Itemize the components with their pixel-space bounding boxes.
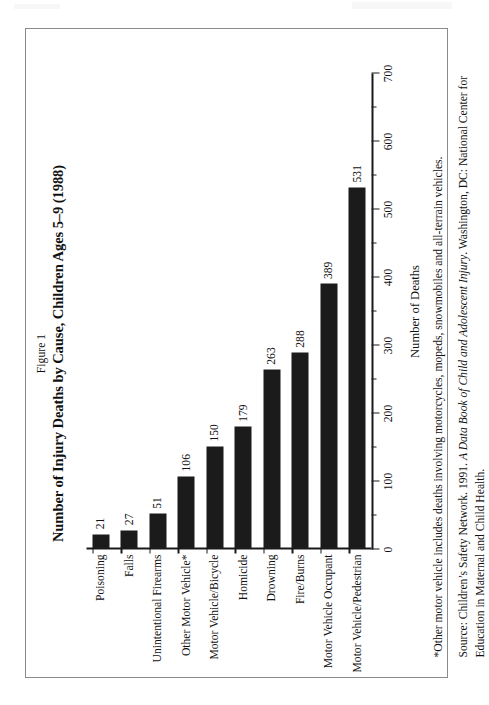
bar-value-label: 263 bbox=[265, 347, 278, 364]
figure-frame: Figure 1 Number of Injury Deaths by Caus… bbox=[25, 28, 448, 678]
value-tick-label: 300 bbox=[382, 337, 395, 354]
value-tick-label: 400 bbox=[382, 269, 395, 286]
bar bbox=[92, 534, 109, 548]
category-label: Drowning bbox=[265, 555, 278, 602]
bar bbox=[206, 447, 223, 549]
bar-row: Other Motor Vehicle*106 bbox=[178, 73, 195, 549]
value-axis-title: Number of Deaths bbox=[408, 74, 423, 550]
value-tick-major bbox=[372, 208, 380, 209]
value-tick-minor bbox=[372, 310, 377, 311]
bar-row: Falls27 bbox=[121, 73, 138, 549]
value-tick-major bbox=[372, 72, 380, 73]
source-text: Source: Children’s Safety Network. 1991.… bbox=[456, 46, 489, 658]
category-tick bbox=[92, 549, 93, 554]
figure-notes: *Other motor vehicle includes deaths inv… bbox=[431, 46, 489, 658]
category-label: Fire/Burns bbox=[294, 555, 307, 605]
scan-artifact-top-left bbox=[14, 4, 60, 9]
bar-chart-plot-area: Poisoning21Falls27Unintentional Firearms… bbox=[87, 74, 372, 550]
value-tick-label: 200 bbox=[382, 405, 395, 422]
bar bbox=[292, 353, 309, 549]
footnote-text: *Other motor vehicle includes deaths inv… bbox=[431, 46, 447, 658]
value-tick-label: 700 bbox=[382, 65, 395, 82]
category-tick bbox=[320, 549, 321, 554]
category-label: Motor Vehicle Occupant bbox=[322, 555, 335, 669]
chart-title: Number of Injury Deaths by Cause, Childr… bbox=[50, 30, 67, 678]
bar bbox=[263, 370, 280, 549]
bar-value-label: 179 bbox=[237, 404, 250, 421]
bar-row: Poisoning21 bbox=[92, 73, 109, 549]
bar-row: Motor Vehicle Occupant389 bbox=[320, 73, 337, 549]
category-tick bbox=[349, 549, 350, 554]
value-tick-minor bbox=[372, 174, 377, 175]
value-tick-minor bbox=[372, 378, 377, 379]
value-tick-major bbox=[372, 140, 380, 141]
value-tick-major bbox=[372, 548, 380, 549]
bar bbox=[121, 530, 138, 548]
value-tick-major bbox=[372, 344, 380, 345]
bar-row: Motor Vehicle/Pedestrian531 bbox=[349, 73, 366, 549]
bar-value-label: 106 bbox=[180, 454, 193, 471]
category-label: Poisoning bbox=[94, 555, 107, 601]
value-tick-major bbox=[372, 276, 380, 277]
category-label: Motor Vehicle/Bicycle bbox=[208, 555, 221, 660]
value-tick-major bbox=[372, 480, 380, 481]
value-tick-major bbox=[372, 412, 380, 413]
figure-number-label: Figure 1 bbox=[35, 30, 47, 678]
bar bbox=[349, 187, 366, 548]
scan-artifact-top-right bbox=[352, 2, 452, 9]
category-label: Other Motor Vehicle* bbox=[180, 555, 193, 657]
value-axis-line bbox=[372, 74, 374, 550]
bar-value-label: 150 bbox=[208, 424, 221, 441]
bar-value-label: 389 bbox=[322, 262, 335, 279]
category-tick bbox=[235, 549, 236, 554]
bar-value-label: 27 bbox=[123, 514, 136, 526]
value-tick-label: 0 bbox=[382, 547, 395, 553]
source-prefix: Source: Children’s Safety Network. 1991. bbox=[457, 460, 470, 657]
value-tick-label: 500 bbox=[382, 201, 395, 218]
category-label: Homicide bbox=[237, 555, 250, 601]
category-label: Falls bbox=[123, 555, 136, 578]
source-title-italic: A Data Book of Child and Adolescent Inju… bbox=[457, 255, 470, 460]
category-label: Motor Vehicle/Pedestrian bbox=[351, 555, 364, 673]
value-tick-minor bbox=[372, 514, 377, 515]
bar bbox=[178, 476, 195, 548]
value-axis-scale: 0100200300400500600700 bbox=[372, 74, 406, 550]
category-tick bbox=[178, 549, 179, 554]
rotated-figure-canvas: Figure 1 Number of Injury Deaths by Caus… bbox=[27, 30, 448, 678]
bar-row: Homicide179 bbox=[235, 73, 252, 549]
bar bbox=[320, 284, 337, 549]
category-tick bbox=[292, 549, 293, 554]
bar-row: Motor Vehicle/Bicycle150 bbox=[206, 73, 223, 549]
bar-value-label: 288 bbox=[294, 330, 307, 347]
bar-row: Drowning263 bbox=[263, 73, 280, 549]
category-tick bbox=[263, 549, 264, 554]
value-tick-minor bbox=[372, 446, 377, 447]
category-tick bbox=[149, 549, 150, 554]
category-label: Unintentional Firearms bbox=[151, 555, 164, 663]
bar-value-label: 531 bbox=[351, 165, 364, 182]
bar bbox=[149, 514, 166, 549]
value-tick-label: 600 bbox=[382, 133, 395, 150]
category-tick bbox=[121, 549, 122, 554]
bar bbox=[235, 427, 252, 549]
bar-value-label: 51 bbox=[151, 497, 164, 509]
category-tick bbox=[206, 549, 207, 554]
value-tick-minor bbox=[372, 242, 377, 243]
bar-row: Unintentional Firearms51 bbox=[149, 73, 166, 549]
bar-row: Fire/Burns288 bbox=[292, 73, 309, 549]
value-tick-minor bbox=[372, 106, 377, 107]
bar-value-label: 21 bbox=[94, 518, 107, 530]
value-tick-label: 100 bbox=[382, 473, 395, 490]
